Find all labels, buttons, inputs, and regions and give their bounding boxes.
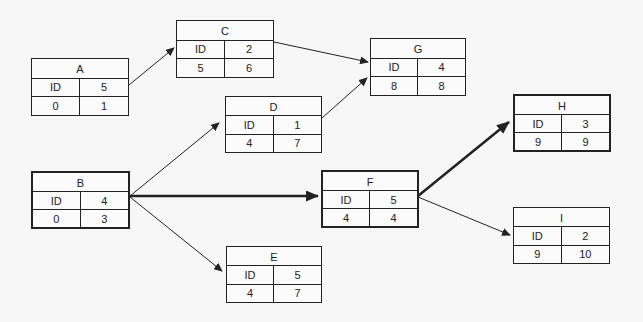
early-finish-value: 7	[274, 134, 322, 152]
early-finish-value: 7	[274, 284, 321, 302]
arrow-c-to-g	[274, 42, 368, 62]
node-g: G ID 4 8 8	[370, 38, 466, 96]
id-label: ID	[32, 78, 80, 97]
early-start-value: 0	[33, 209, 81, 227]
duration-value: 4	[81, 191, 129, 209]
duration-value: 3	[562, 114, 609, 132]
early-finish-value: 1	[80, 96, 128, 115]
duration-value: 4	[418, 58, 465, 77]
arrow-d-to-g	[322, 78, 367, 118]
early-start-value: 9	[515, 132, 562, 150]
id-label: ID	[515, 114, 562, 132]
early-finish-value: 6	[225, 58, 273, 77]
node-title: C	[177, 21, 273, 40]
early-start-value: 0	[32, 96, 80, 115]
node-title: B	[33, 173, 128, 191]
id-label: ID	[323, 190, 370, 208]
node-c: C ID 2 5 6	[176, 20, 274, 78]
node-title: I	[514, 208, 609, 226]
early-finish-value: 4	[370, 208, 417, 226]
duration-value: 2	[562, 226, 610, 244]
early-finish-value: 9	[562, 132, 609, 150]
node-title: E	[227, 247, 321, 265]
arrow-a-to-c	[129, 48, 174, 85]
early-start-value: 4	[226, 134, 274, 152]
early-start-value: 8	[371, 76, 418, 95]
arrow-b-to-d	[130, 123, 219, 196]
early-finish-value: 8	[418, 76, 465, 95]
id-label: ID	[371, 58, 418, 77]
arrow-f-to-i	[418, 197, 510, 235]
node-i: I ID 2 9 10	[513, 207, 610, 264]
node-title: F	[323, 172, 417, 190]
node-a: A ID 5 0 1	[31, 58, 129, 116]
node-title: G	[371, 39, 465, 58]
node-title: D	[226, 97, 321, 115]
early-start-value: 4	[227, 284, 274, 302]
node-title: A	[32, 59, 128, 78]
early-start-value: 9	[514, 245, 562, 263]
node-b: B ID 4 0 3	[31, 171, 130, 229]
arrow-b-to-e	[130, 197, 222, 271]
id-label: ID	[33, 191, 81, 209]
duration-value: 1	[274, 115, 322, 133]
id-label: ID	[227, 265, 274, 283]
node-h: H ID 3 9 9	[513, 94, 611, 152]
early-start-value: 4	[323, 208, 370, 226]
early-start-value: 5	[177, 58, 225, 77]
node-f: F ID 5 4 4	[321, 170, 419, 228]
id-label: ID	[226, 115, 274, 133]
duration-value: 5	[80, 78, 128, 97]
node-title: H	[515, 96, 609, 114]
arrow-f-to-h	[418, 122, 509, 196]
duration-value: 5	[274, 265, 321, 283]
id-label: ID	[177, 40, 225, 59]
early-finish-value: 10	[562, 245, 610, 263]
node-e: E ID 5 4 7	[226, 246, 322, 303]
node-d: D ID 1 4 7	[225, 96, 322, 153]
duration-value: 5	[370, 190, 417, 208]
early-finish-value: 3	[81, 209, 129, 227]
id-label: ID	[514, 226, 562, 244]
duration-value: 2	[225, 40, 273, 59]
